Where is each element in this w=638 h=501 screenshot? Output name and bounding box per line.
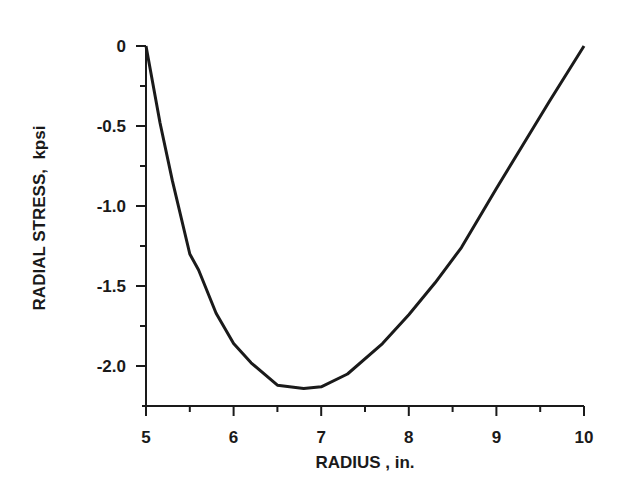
x-tick-label: 8 [404, 428, 413, 447]
x-tick-label: 7 [316, 428, 325, 447]
radial-stress-chart: 5678910 0-0.5-1.0-1.5-2.0 RADIUS , in. R… [0, 0, 638, 501]
x-ticks: 5678910 [141, 406, 593, 447]
y-tick-label: -1.5 [97, 277, 126, 296]
y-ticks: 0-0.5-1.0-1.5-2.0 [97, 37, 146, 376]
x-axis-title: RADIUS , in. [315, 453, 414, 472]
x-tick-label: 5 [141, 428, 150, 447]
y-tick-label: -2.0 [97, 357, 126, 376]
y-axis-title: RADIAL STRESS, kpsi [30, 126, 49, 311]
axes [142, 46, 584, 410]
x-tick-label: 9 [492, 428, 501, 447]
x-tick-label: 10 [575, 428, 594, 447]
y-tick-label: 0 [117, 37, 126, 56]
y-tick-label: -0.5 [97, 117, 126, 136]
x-tick-label: 6 [229, 428, 238, 447]
series-line-radial-stress [146, 46, 584, 388]
y-tick-label: -1.0 [97, 197, 126, 216]
